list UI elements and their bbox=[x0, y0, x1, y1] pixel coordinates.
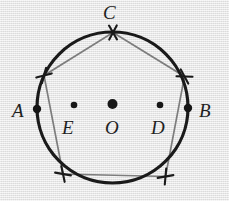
label-b: B bbox=[199, 101, 211, 120]
label-e: E bbox=[62, 118, 74, 137]
label-o: O bbox=[105, 118, 119, 137]
mark-V5 bbox=[36, 68, 51, 83]
plotted-points bbox=[33, 99, 192, 113]
point-b bbox=[184, 104, 192, 112]
point-d bbox=[157, 102, 164, 109]
label-a: A bbox=[12, 101, 24, 120]
label-c: C bbox=[103, 3, 116, 22]
geometry-canvas bbox=[0, 0, 229, 201]
point-a bbox=[33, 105, 41, 113]
label-d: D bbox=[151, 118, 165, 137]
point-o bbox=[108, 99, 118, 109]
point-e bbox=[71, 102, 78, 109]
geometry-figure: ABCEOD bbox=[0, 0, 229, 201]
mark-V3 bbox=[158, 169, 174, 185]
